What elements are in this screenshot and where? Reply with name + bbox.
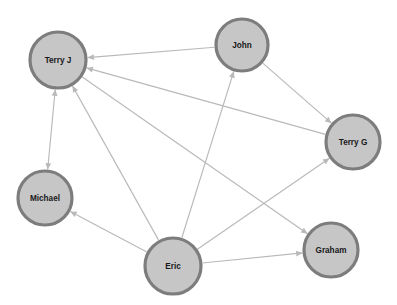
edge-eric-to-graham bbox=[202, 251, 302, 263]
edge-line bbox=[70, 211, 147, 252]
edge-line bbox=[48, 89, 56, 169]
node-graham[interactable]: Graham bbox=[304, 223, 358, 277]
edge-eric-to-michael bbox=[70, 211, 147, 252]
edge-line bbox=[82, 77, 307, 234]
node-label-eric: Eric bbox=[165, 262, 181, 271]
node-label-john: John bbox=[232, 41, 252, 50]
node-eric[interactable]: Eric bbox=[145, 238, 201, 294]
node-label-michael: Michael bbox=[30, 194, 60, 203]
edge-john-to-terry_g bbox=[263, 63, 332, 123]
edge-line bbox=[263, 63, 332, 123]
graph-canvas: Terry JJohnTerry GMichaelEricGraham bbox=[0, 0, 397, 305]
edge-eric-to-terry_j bbox=[72, 86, 158, 240]
edge-line bbox=[87, 68, 326, 134]
arrowhead-to-terry_j bbox=[88, 54, 95, 60]
node-label-graham: Graham bbox=[316, 246, 347, 255]
node-label-terry_g: Terry G bbox=[339, 138, 368, 147]
node-terry_j[interactable]: Terry J bbox=[30, 32, 86, 88]
arrowhead-to-john bbox=[229, 71, 235, 78]
edge-terry_j-to-graham bbox=[82, 77, 307, 234]
node-michael[interactable]: Michael bbox=[18, 171, 72, 225]
node-label-terry_j: Terry J bbox=[45, 56, 72, 65]
arrowhead-to-graham bbox=[301, 228, 308, 234]
arrowhead-to-terry_g bbox=[323, 158, 330, 164]
edge-john-to-terry_j bbox=[88, 47, 215, 60]
edge-terry_g-to-terry_j bbox=[87, 67, 326, 134]
node-terry_g[interactable]: Terry G bbox=[326, 115, 380, 169]
node-john[interactable]: John bbox=[216, 19, 268, 71]
edge-terry_j-to-michael bbox=[45, 89, 57, 169]
edge-line bbox=[88, 47, 215, 57]
nodes-layer: Terry JJohnTerry GMichaelEricGraham bbox=[18, 19, 380, 294]
edge-line bbox=[202, 253, 302, 263]
graph-svg: Terry JJohnTerry GMichaelEricGraham bbox=[0, 0, 397, 305]
edge-line bbox=[72, 86, 158, 240]
edges-layer bbox=[45, 47, 331, 263]
